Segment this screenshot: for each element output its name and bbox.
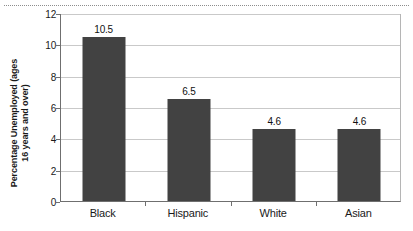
bar-slot: 4.6 xyxy=(232,14,317,201)
y-axis-tick-mark xyxy=(56,139,60,140)
bar-slot: 6.5 xyxy=(146,14,231,201)
y-axis-tick-mark xyxy=(56,108,60,109)
unemployment-bar-chart: Percentage Unemployed (ages 16 years and… xyxy=(0,0,413,231)
bar-asian[interactable] xyxy=(338,129,381,201)
bar-value-label: 4.6 xyxy=(267,116,280,127)
bar-white[interactable] xyxy=(253,129,296,201)
bar-value-label: 4.6 xyxy=(353,116,366,127)
y-axis-tick-label: 8 xyxy=(30,71,56,82)
y-axis-tick-label: 2 xyxy=(30,165,56,176)
y-axis-tick-mark xyxy=(56,14,60,15)
x-axis-tick-mark xyxy=(316,202,317,206)
y-axis-tick-label: 10 xyxy=(30,40,56,51)
y-axis-tick-label: 4 xyxy=(30,134,56,145)
bar-black[interactable] xyxy=(82,37,125,202)
y-axis-tick-label: 12 xyxy=(30,9,56,20)
y-axis-tick-mark xyxy=(56,77,60,78)
y-axis-tick-labels: 024681012 xyxy=(30,14,56,202)
y-axis-tick-mark xyxy=(56,202,60,203)
x-axis-category-labels: BlackHispanicWhiteAsian xyxy=(60,207,401,227)
scan-artifact-dotted-rule xyxy=(4,5,409,6)
plot-inner: 10.56.54.64.6 xyxy=(61,14,400,201)
x-axis-category-white: White xyxy=(260,207,287,219)
x-axis-tick-mark xyxy=(231,202,232,206)
plot-area: 10.56.54.64.6 xyxy=(60,14,401,202)
bar-value-label: 6.5 xyxy=(182,86,195,97)
x-axis-tick-mark xyxy=(145,202,146,206)
bar-slot: 10.5 xyxy=(61,14,146,201)
x-axis-category-asian: Asian xyxy=(345,207,372,219)
y-axis-title-line-1: Percentage Unemployed (ages xyxy=(9,59,21,187)
y-axis-tick-mark xyxy=(56,171,60,172)
bar-value-label: 10.5 xyxy=(94,24,113,35)
bar-hispanic[interactable] xyxy=(167,99,210,201)
y-axis-tick-label: 6 xyxy=(30,103,56,114)
bar-slot: 4.6 xyxy=(317,14,402,201)
x-axis-category-hispanic: Hispanic xyxy=(168,207,209,219)
y-axis-tick-label: 0 xyxy=(30,197,56,208)
y-axis-tick-mark xyxy=(56,45,60,46)
x-axis-category-black: Black xyxy=(90,207,116,219)
